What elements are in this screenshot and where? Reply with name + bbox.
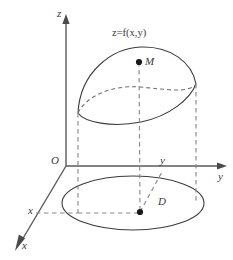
y-coordinate-label: y: [160, 155, 165, 166]
z-axis-label: z: [57, 8, 61, 19]
origin-label: O: [51, 155, 59, 166]
surface-upper-edge: [78, 47, 196, 113]
x-axis-label: x: [22, 240, 27, 251]
surface-group: [78, 47, 196, 124]
x-axis-line: [22, 166, 66, 240]
point-d-dot: [137, 209, 143, 215]
x-coordinate-label: x: [28, 205, 33, 216]
projection-lines-group: [36, 62, 196, 213]
diagram-svg: [0, 0, 233, 260]
y-axis-arrowhead: [217, 162, 227, 169]
region-d-label: D: [158, 196, 166, 207]
y-axis-label: y: [218, 171, 223, 182]
surface-lower-edge: [78, 84, 196, 124]
z-axis-arrowhead: [62, 14, 69, 24]
region-d-ellipse: [62, 176, 204, 230]
surface-hidden-rim: [78, 84, 196, 113]
point-m-projector-line: [139, 62, 140, 212]
figure-canvas: z y x O z=f(x,y) M D y x: [0, 0, 233, 260]
axes-group: [15, 14, 227, 251]
point-m-dot: [136, 59, 142, 65]
point-m-label: M: [145, 56, 154, 67]
region-d-group: [62, 176, 204, 230]
surface-equation-label: z=f(x,y): [112, 28, 146, 39]
